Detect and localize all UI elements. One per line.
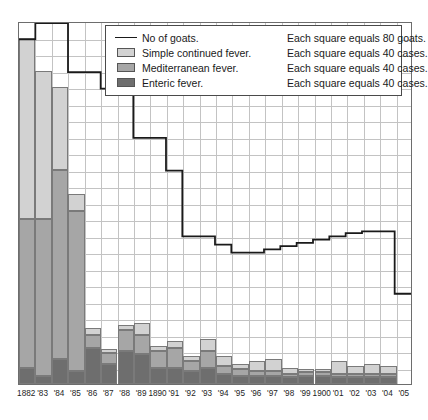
mediterranean-fever-swatch-icon — [112, 63, 140, 72]
x-tick-label: '05 — [398, 389, 409, 398]
legend-label-goats: No of goats. — [140, 32, 287, 44]
x-tick-label: '99 — [300, 389, 311, 398]
x-tick-label: '94 — [218, 389, 229, 398]
legend-note-enteric: Each square equals 40 cases. — [287, 77, 428, 89]
x-tick-label: 1882 — [17, 389, 35, 398]
x-tick-label: '96 — [251, 389, 262, 398]
x-tick-label: 1900 — [313, 389, 331, 398]
x-tick-label: '85 — [70, 389, 81, 398]
x-tick-label: '02 — [349, 389, 360, 398]
legend-label-mediterranean: Mediterranean fever. — [140, 62, 287, 74]
x-tick-label: '03 — [366, 389, 377, 398]
x-tick-label: '86 — [87, 389, 98, 398]
x-tick-label: '91 — [169, 389, 180, 398]
x-tick-label: 1890 — [148, 389, 166, 398]
legend-label-simple: Simple continued fever. — [140, 47, 287, 59]
x-axis-tick-labels: 1882'83'84'85'86'87'88'891890'91'92'93'9… — [18, 389, 412, 409]
enteric-fever-swatch-icon — [112, 78, 140, 87]
x-tick-label: '83 — [37, 389, 48, 398]
legend-row-mediterranean: Mediterranean fever. Each square equals … — [112, 60, 395, 75]
x-tick-label: '92 — [185, 389, 196, 398]
x-tick-label: '98 — [284, 389, 295, 398]
x-tick-label: '95 — [234, 389, 245, 398]
x-tick-label: '01 — [333, 389, 344, 398]
legend-note-simple: Each square equals 40 cases. — [287, 47, 428, 59]
legend-row-goats: No of goats. Each square equals 80 goats… — [112, 30, 395, 45]
x-tick-label: '93 — [201, 389, 212, 398]
x-tick-label: '97 — [267, 389, 278, 398]
x-tick-label: '84 — [54, 389, 65, 398]
legend-label-enteric: Enteric fever. — [140, 77, 287, 89]
goats-line-icon — [112, 37, 140, 38]
chart-figure: No of goats. Each square equals 80 goats… — [0, 0, 428, 420]
legend-row-enteric: Enteric fever. Each square equals 40 cas… — [112, 75, 395, 90]
x-tick-label: '89 — [136, 389, 147, 398]
x-tick-label: '88 — [119, 389, 130, 398]
simple-fever-swatch-icon — [112, 48, 140, 57]
legend-row-simple: Simple continued fever. Each square equa… — [112, 45, 395, 60]
x-tick-label: '04 — [382, 389, 393, 398]
legend-note-mediterranean: Each square equals 40 cases. — [287, 62, 428, 74]
chart-legend: No of goats. Each square equals 80 goats… — [105, 25, 402, 96]
x-tick-label: '87 — [103, 389, 114, 398]
legend-note-goats: Each square equals 80 goats. — [287, 32, 426, 44]
